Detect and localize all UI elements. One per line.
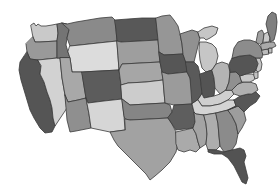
state-rhode-island[interactable] <box>269 48 272 53</box>
state-delaware[interactable] <box>254 72 258 79</box>
state-north-dakota[interactable] <box>115 18 158 42</box>
us-choropleth-map <box>0 0 278 189</box>
state-minnesota[interactable] <box>156 15 183 55</box>
state-massachusetts[interactable] <box>261 42 276 50</box>
state-kansas[interactable] <box>121 80 165 105</box>
state-florida[interactable] <box>208 148 248 184</box>
state-new-mexico[interactable] <box>86 98 125 132</box>
state-wyoming[interactable] <box>68 41 119 72</box>
state-iowa[interactable] <box>159 52 187 74</box>
state-colorado[interactable] <box>82 70 122 103</box>
state-washington[interactable] <box>31 23 58 42</box>
map-canvas <box>0 0 278 189</box>
